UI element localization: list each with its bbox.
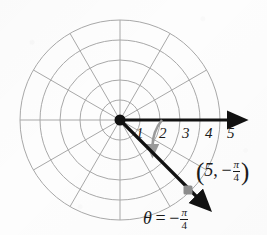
point-label-minus: − bbox=[221, 160, 231, 180]
point-label-radius: 5 bbox=[204, 160, 213, 180]
radial-tick-label-3: 3 bbox=[182, 126, 190, 141]
point-coordinate-label: (5, −π4) bbox=[196, 160, 249, 184]
pole-origin-dot bbox=[115, 115, 126, 126]
polar-plot-figure bbox=[0, 0, 267, 235]
theta-four: 4 bbox=[180, 219, 188, 232]
theta-minus-sign: − bbox=[169, 208, 179, 228]
point-label-fraction: π4 bbox=[233, 159, 241, 183]
point-label-pi: π bbox=[233, 159, 241, 171]
theta-symbol: θ bbox=[143, 208, 152, 228]
point-label-comma: , bbox=[213, 160, 218, 180]
radial-tick-label-1: 1 bbox=[136, 126, 144, 141]
point-label-four: 4 bbox=[233, 171, 241, 184]
plotted-point-marker bbox=[184, 186, 193, 195]
radial-tick-label-5: 5 bbox=[227, 126, 235, 141]
theta-fraction: π4 bbox=[180, 207, 188, 231]
point-label-close-paren: ) bbox=[241, 158, 249, 185]
radial-tick-label-4: 4 bbox=[205, 126, 213, 141]
theta-pi: π bbox=[180, 207, 188, 219]
radial-tick-label-2: 2 bbox=[159, 126, 167, 141]
theta-equals-sign: = bbox=[155, 208, 165, 228]
theta-equation-label: θ = −π4 bbox=[143, 208, 189, 232]
